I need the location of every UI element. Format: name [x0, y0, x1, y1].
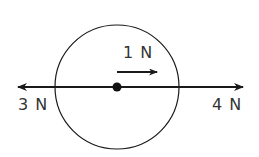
free-body-diagram	[0, 0, 259, 157]
label-1n: 1 N	[123, 45, 153, 61]
center-point	[113, 83, 122, 92]
label-4n: 4 N	[212, 97, 242, 113]
label-3n: 3 N	[18, 97, 48, 113]
